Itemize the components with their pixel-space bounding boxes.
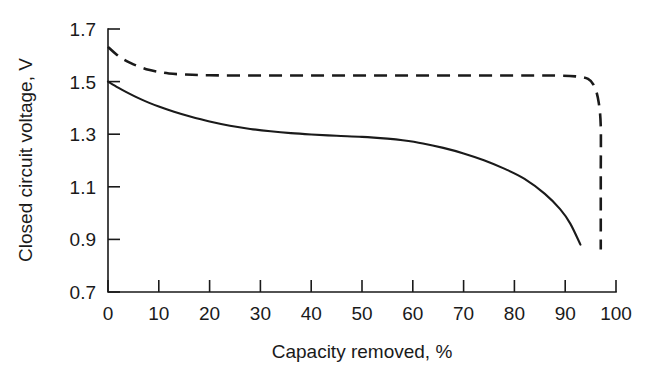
y-axis-tick-labels: 0.70.91.11.31.51.7 bbox=[70, 19, 96, 303]
x-tick-label: 100 bbox=[600, 303, 632, 324]
y-axis-title: Closed circuit voltage, V bbox=[15, 58, 36, 262]
x-tick-label: 60 bbox=[402, 303, 423, 324]
series-dashed-discharge-curve bbox=[108, 47, 601, 250]
y-tick-label: 1.1 bbox=[70, 177, 96, 198]
x-tick-label: 80 bbox=[504, 303, 525, 324]
y-tick-label: 1.5 bbox=[70, 72, 96, 93]
x-tick-label: 70 bbox=[453, 303, 474, 324]
axis-spine bbox=[108, 29, 616, 292]
x-tick-label: 40 bbox=[301, 303, 322, 324]
x-tick-label: 50 bbox=[351, 303, 372, 324]
chart-series bbox=[108, 47, 601, 250]
x-axis-title: Capacity removed, % bbox=[272, 341, 453, 362]
x-tick-label: 30 bbox=[250, 303, 271, 324]
series-solid-discharge-curve bbox=[108, 82, 580, 245]
y-tick-label: 0.7 bbox=[70, 282, 96, 303]
chart-figure: 0102030405060708090100 0.70.91.11.31.51.… bbox=[0, 0, 660, 380]
y-tick-label: 0.9 bbox=[70, 229, 96, 250]
chart-tick-marks bbox=[108, 29, 616, 292]
chart-plot-area: 0102030405060708090100 0.70.91.11.31.51.… bbox=[0, 0, 660, 380]
chart-axes bbox=[108, 29, 616, 292]
x-tick-label: 0 bbox=[103, 303, 114, 324]
x-tick-label: 90 bbox=[555, 303, 576, 324]
x-tick-label: 10 bbox=[148, 303, 169, 324]
x-axis-tick-labels: 0102030405060708090100 bbox=[103, 303, 632, 324]
y-tick-label: 1.7 bbox=[70, 19, 96, 40]
x-tick-label: 20 bbox=[199, 303, 220, 324]
y-tick-label: 1.3 bbox=[70, 124, 96, 145]
